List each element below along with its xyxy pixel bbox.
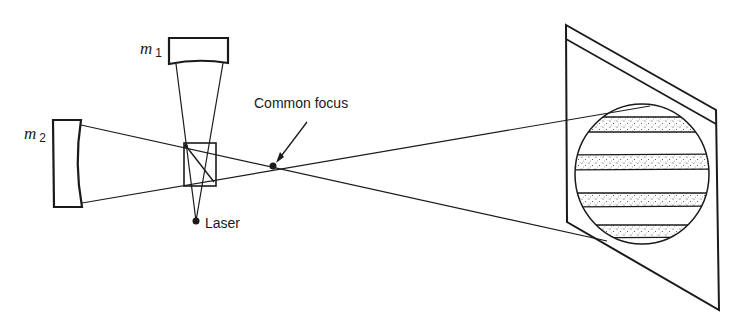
common-focus <box>270 122 308 170</box>
focus-pointer-arrow <box>279 122 307 159</box>
laser-dot-icon <box>193 218 200 225</box>
m1-rays <box>176 63 223 221</box>
laser <box>193 218 200 225</box>
fringe-pattern <box>570 104 720 244</box>
m2-rays <box>81 106 650 241</box>
mirror-m2 <box>53 120 82 207</box>
focus-label: Common focus <box>254 95 348 111</box>
mirror-m1 <box>169 38 228 64</box>
focus-dot-icon <box>270 163 277 170</box>
laser-label: Laser <box>205 215 240 231</box>
fringe-band <box>570 155 720 170</box>
fringe-band <box>570 117 720 132</box>
optical-diagram: m1 m2 Laser Common focus <box>0 0 737 327</box>
fringe-band <box>570 193 720 207</box>
mirror-m1-label: m1 <box>140 39 162 60</box>
mirror-m2-label: m2 <box>24 124 46 145</box>
